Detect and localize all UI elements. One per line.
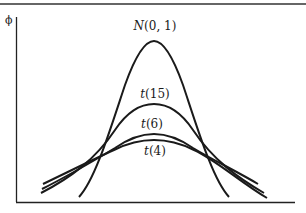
label-normal-args: (0, 1)	[144, 19, 176, 33]
label-t4-args: (4)	[149, 144, 166, 158]
label-t6-args: (6)	[146, 117, 163, 131]
y-axis-label: ϕ	[5, 14, 13, 27]
label-t4: t(4)	[144, 145, 166, 157]
label-normal: N(0, 1)	[134, 20, 177, 32]
label-normal-letter: N	[134, 19, 145, 33]
label-t15: t(15)	[140, 88, 169, 100]
label-t15-args: (15)	[145, 87, 170, 101]
label-t6: t(6)	[141, 118, 163, 130]
curve-t6	[42, 134, 258, 189]
